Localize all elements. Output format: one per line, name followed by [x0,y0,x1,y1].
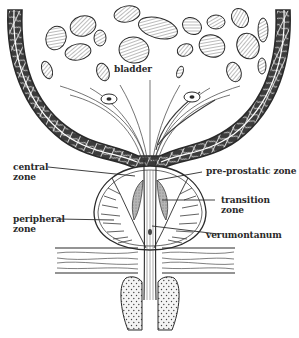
bladder-neck-strands [60,80,240,170]
urogenital-diaphragm [55,248,235,273]
label-transition-zone: transition zone [221,195,270,215]
label-bladder: bladder [114,64,152,74]
label-peripheral-zone-line1: peripheral [13,214,65,224]
label-peripheral-zone: peripheral zone [13,214,65,234]
label-transition-zone-line2: zone [221,205,270,215]
label-central-zone-line1: central [13,162,48,172]
ureteric-orifices [101,92,200,104]
bladder-cells [39,4,268,84]
label-verumontanum: verumontanum [206,230,282,240]
label-central-zone-line2: zone [13,172,48,182]
label-pre-prostatic-zone: pre-prostatic zone [206,166,296,176]
prostate-zones-diagram: bladder central zone peripheral zone pre… [0,0,299,338]
label-central-zone: central zone [13,162,48,182]
label-transition-zone-line1: transition [221,195,270,205]
label-peripheral-zone-line2: zone [13,224,65,234]
